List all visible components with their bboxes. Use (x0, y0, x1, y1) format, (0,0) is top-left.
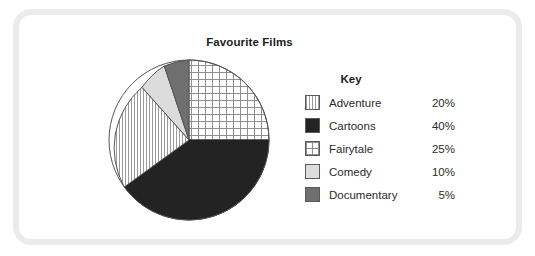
solid-black-swatch-icon (305, 118, 320, 133)
pie-slice-fairytale (189, 60, 269, 140)
legend-item-value: 10% (419, 166, 455, 178)
legend-item-value: 40% (419, 120, 455, 132)
chart-card: Favourite Films (13, 9, 522, 245)
page-title: Favourite Films (19, 36, 516, 48)
pie-chart-svg (107, 58, 271, 222)
legend-item-adventure: Adventure 20% (305, 91, 455, 114)
legend-item-label: Adventure (320, 97, 419, 109)
legend-item-label: Documentary (320, 189, 419, 201)
legend-item-fairytale: Fairytale 25% (305, 137, 455, 160)
legend-item-comedy: Comedy 10% (305, 160, 455, 183)
pie-chart (107, 58, 271, 222)
vertical-stripes-swatch-icon (305, 95, 320, 110)
legend-item-label: Cartoons (320, 120, 419, 132)
legend: Key Adventure 20% Cartoons 40% Fairytale… (305, 73, 455, 206)
light-gray-swatch-icon (305, 164, 320, 179)
legend-item-value: 20% (419, 97, 455, 109)
legend-item-label: Comedy (320, 166, 419, 178)
legend-item-value: 5% (419, 189, 455, 201)
medium-gray-swatch-icon (305, 187, 320, 202)
grid-pattern-swatch-icon (305, 141, 320, 156)
legend-item-cartoons: Cartoons 40% (305, 114, 455, 137)
legend-title: Key (305, 73, 397, 85)
legend-item-documentary: Documentary 5% (305, 183, 455, 206)
chart-title-text: Favourite Films (206, 36, 293, 48)
legend-item-value: 25% (419, 143, 455, 155)
legend-item-label: Fairytale (320, 143, 419, 155)
